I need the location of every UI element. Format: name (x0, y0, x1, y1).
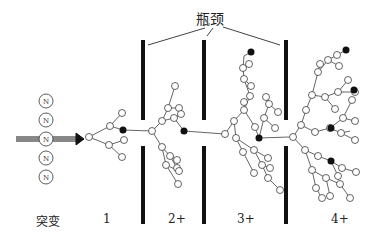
svg-text:N: N (43, 117, 49, 125)
svg-text:N: N (43, 155, 49, 163)
diagram-canvas: NNNNN (0, 0, 386, 240)
bottleneck-title: 瓶颈 (196, 8, 224, 28)
svg-text:N: N (43, 136, 49, 144)
bottleneck-diagram: NNNNN 瓶颈 突变 1 2+ 3+ 4+ (0, 0, 386, 240)
bottleneck-connector (207, 28, 213, 36)
lineage-nodes (86, 52, 360, 202)
label-mutation: 突变 (36, 212, 60, 229)
bottleneck-connector (148, 28, 205, 45)
bottleneck-walls (141, 40, 288, 224)
bottleneck-connector (223, 27, 280, 45)
label-stage-2: 2+ (168, 212, 186, 226)
svg-text:N: N (43, 174, 49, 182)
label-stage-1: 1 (103, 212, 111, 226)
label-stage-3: 3+ (237, 212, 255, 226)
svg-text:N: N (43, 98, 49, 106)
label-stage-4: 4+ (331, 212, 349, 226)
